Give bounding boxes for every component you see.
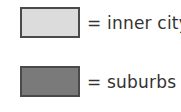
suburbs-swatch: [20, 66, 80, 97]
legend-item-inner-city: = inner city: [20, 7, 181, 38]
inner-city-label: = inner city: [87, 13, 181, 33]
suburbs-label: = suburbs: [87, 72, 176, 92]
legend-item-suburbs: = suburbs: [20, 66, 176, 97]
inner-city-swatch: [20, 7, 80, 38]
